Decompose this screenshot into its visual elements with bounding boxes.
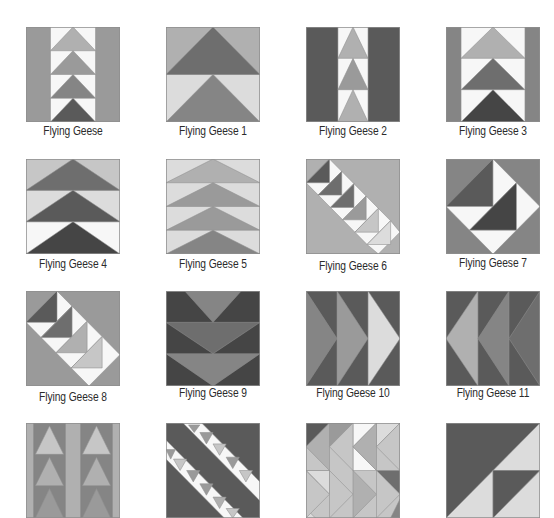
quilt-block-7: [446, 159, 540, 254]
quilt-block-8: [26, 291, 120, 386]
quilt-block-pattern: [446, 291, 540, 386]
quilt-block-pattern: [446, 423, 540, 518]
quilt-block-9: [166, 291, 260, 386]
block-label: Flying Geese 7: [436, 256, 551, 270]
quilt-block-6: [306, 159, 400, 254]
quilt-block-12: [26, 423, 120, 518]
quilt-block-pattern: [446, 159, 540, 254]
quilt-block-14: [306, 423, 400, 518]
quilt-block-pattern: [306, 27, 400, 122]
quilt-block-pattern: [306, 159, 400, 254]
quilt-block-pattern: [26, 27, 120, 122]
block-label: Flying Geese 3: [436, 124, 551, 138]
quilt-block-pattern: [26, 423, 120, 518]
quilt-block-0: [26, 27, 120, 122]
quilt-block-13: [166, 423, 260, 518]
block-label: Flying Geese 2: [296, 124, 411, 138]
quilt-block-pattern: [26, 291, 120, 386]
block-label: Flying Geese: [16, 124, 131, 138]
quilt-block-2: [306, 27, 400, 122]
block-label: Flying Geese 9: [156, 386, 271, 400]
quilt-block-15: [446, 423, 540, 518]
block-label: Flying Geese 11: [436, 386, 551, 400]
block-label: Flying Geese 4: [16, 257, 131, 271]
quilt-block-pattern: [446, 27, 540, 122]
quilt-block-4: [26, 159, 120, 254]
block-label: Flying Geese 6: [296, 259, 411, 273]
quilt-block-pattern: [306, 423, 400, 518]
block-label: Flying Geese 8: [16, 390, 131, 404]
quilt-block-3: [446, 27, 540, 122]
quilt-block-1: [166, 27, 260, 122]
quilt-block-pattern: [166, 27, 260, 122]
quilt-block-pattern: [166, 291, 260, 386]
quilt-block-pattern: [166, 423, 260, 518]
quilt-block-pattern: [306, 291, 400, 386]
block-label: Flying Geese 10: [296, 386, 411, 400]
quilt-block-11: [446, 291, 540, 386]
quilt-block-pattern: [166, 159, 260, 254]
quilt-block-10: [306, 291, 400, 386]
block-label: Flying Geese 1: [156, 124, 271, 138]
block-label: Flying Geese 5: [156, 257, 271, 271]
quilt-block-pattern: [26, 159, 120, 254]
quilt-block-5: [166, 159, 260, 254]
